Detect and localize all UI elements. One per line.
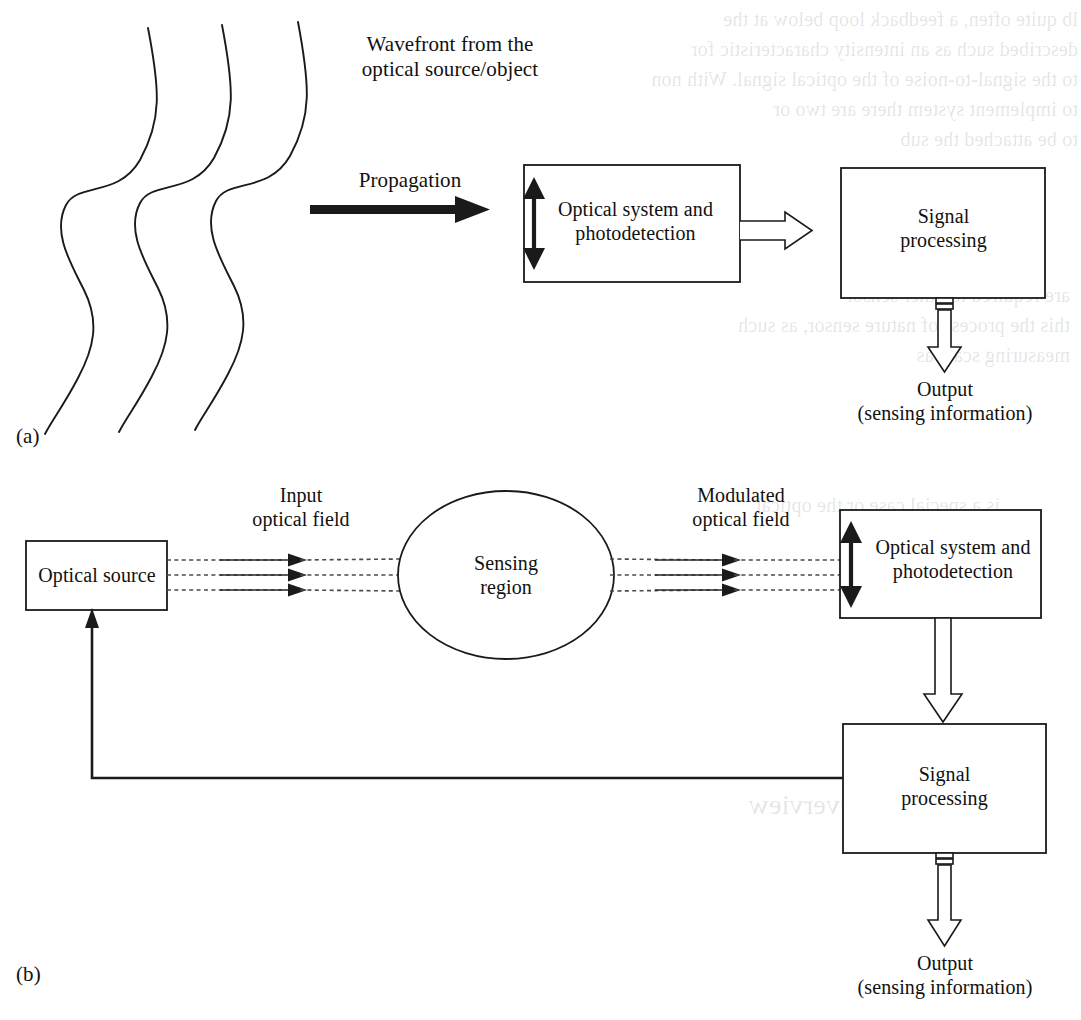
modulated-ray-3 [610, 584, 843, 597]
input-optical-field-label: Input optical field [196, 484, 406, 531]
hollow-arrow-processing-output-b [928, 853, 961, 946]
panel-tag-b: (b) [16, 962, 76, 987]
modulated-optical-field-rays [610, 554, 843, 597]
feedback-path-line [85, 608, 843, 778]
optical-source-label: Optical source [28, 564, 166, 588]
wavefront-curves [45, 22, 307, 434]
sensing-region-label: Sensing region [426, 552, 586, 599]
input-ray-1 [167, 554, 402, 567]
modulated-ray-2 [610, 569, 843, 582]
input-ray-3 [167, 584, 402, 597]
propagation-arrow-icon [310, 196, 490, 223]
hollow-arrow-processing-output-a [928, 298, 961, 372]
output-label-b: Output (sensing information) [820, 952, 1070, 999]
panel-tag-a: (a) [16, 424, 76, 449]
wavefront-curve-1 [45, 28, 157, 434]
modulated-optical-field-label: Modulated optical field [636, 484, 846, 531]
modulated-ray-1 [610, 554, 843, 567]
wavefront-curve-3 [195, 22, 307, 430]
signal-processing-label-b: Signal processing [857, 763, 1032, 810]
optical-system-label-a: Optical system and photodetection [538, 198, 733, 245]
signal-processing-label-a: Signal processing [856, 205, 1031, 252]
ghost-text-mid-right: are required to other sensor this the pr… [430, 280, 1070, 370]
figure-root: lb quite often, a feedback loop below at… [0, 0, 1081, 1020]
optical-system-label-b: Optical system and photodetection [858, 536, 1048, 583]
output-label-a: Output (sensing information) [820, 378, 1070, 425]
hollow-arrow-detector-to-processing-a [740, 212, 812, 249]
input-optical-field-rays [167, 554, 402, 597]
wavefront-curve-2 [119, 25, 231, 432]
input-ray-2 [167, 569, 402, 582]
propagation-label: Propagation [320, 168, 500, 193]
wavefront-label: Wavefront from the optical source/object [300, 32, 600, 82]
diagram-vector-layer: .ln { stroke:#1a1a1a; fill:none; } .box … [0, 0, 1081, 1020]
hollow-arrow-detector-to-processing-b [924, 618, 962, 722]
